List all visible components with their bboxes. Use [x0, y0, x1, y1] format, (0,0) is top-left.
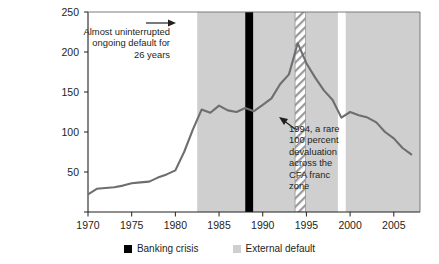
legend-label: External default — [246, 243, 316, 254]
annotation-cfa-devaluation: 1994, a rare 100 percent devaluation acr… — [289, 123, 375, 191]
x-tick-label: 1980 — [164, 219, 188, 231]
annotation-line: 100 percent — [289, 134, 375, 145]
annotation-line: ongoing default for — [44, 37, 170, 48]
square-swatch-icon — [124, 245, 132, 253]
legend-item-external-default: External default — [233, 243, 316, 254]
annotation-line: zone — [289, 180, 375, 191]
annotation-line: across the — [289, 157, 375, 168]
y-tick-label: 50 — [67, 166, 79, 178]
x-tick-label: 1995 — [295, 219, 319, 231]
annotation-line: 1994, a rare — [289, 123, 375, 134]
plot-area: 50100150200250 1970197519801985199019952… — [0, 0, 439, 264]
annotation-line: Almost uninterrupted — [44, 26, 170, 37]
banking-crisis-band — [245, 12, 253, 212]
x-tick-label: 2005 — [382, 219, 406, 231]
legend-label: Banking crisis — [137, 243, 199, 254]
x-tick-label: 1975 — [120, 219, 144, 231]
y-tick-label: 100 — [61, 126, 79, 138]
square-swatch-icon — [233, 245, 241, 253]
y-tick-label: 250 — [61, 6, 79, 18]
x-tick-label: 1990 — [251, 219, 275, 231]
x-axis-ticks: 19701975198019851990199520002005 — [76, 212, 405, 231]
annotation-line: CFA franc — [289, 169, 375, 180]
chart-legend: Banking crisis External default — [0, 243, 439, 254]
x-tick-label: 1970 — [76, 219, 100, 231]
y-tick-label: 150 — [61, 86, 79, 98]
chart-figure: 50100150200250 1970197519801985199019952… — [0, 0, 439, 264]
legend-item-banking-crisis: Banking crisis — [124, 243, 199, 254]
x-tick-label: 1985 — [207, 219, 231, 231]
x-tick-label: 2000 — [338, 219, 362, 231]
annotation-line: devaluation — [289, 146, 375, 157]
annotation-line: 26 years — [44, 49, 170, 60]
annotation-ongoing-default: Almost uninterrupted ongoing default for… — [44, 26, 170, 60]
